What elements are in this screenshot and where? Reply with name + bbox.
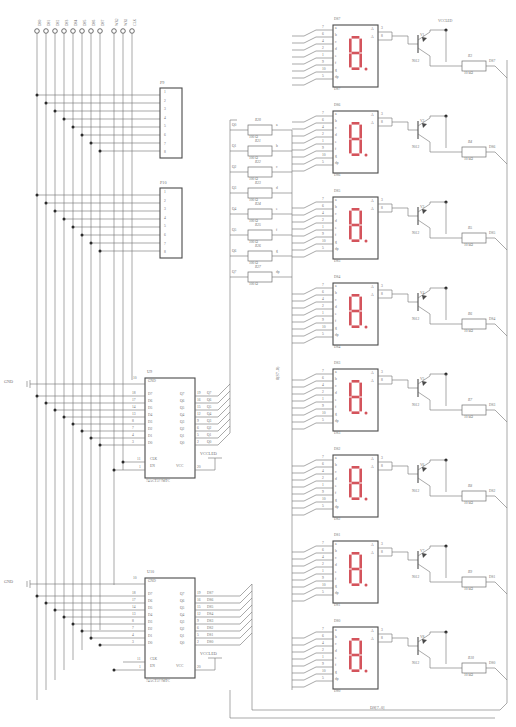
transistor-ref-V7: V7 [420, 550, 424, 554]
display-anode-label-DS1-1: A [371, 552, 374, 556]
ic-output-pin-U10-Q5: 15 [197, 606, 201, 610]
display-anode-pin-DS4-0: 3 [381, 285, 383, 289]
display-seg-pin-DS1-e: 1 [322, 570, 324, 574]
display-segment-DS0-3 [352, 669, 360, 672]
display-seg-name-DS2-d: d [335, 478, 337, 482]
display-segment-DS7-6 [352, 52, 360, 55]
top-terminal-label-DS0: DS0 [39, 20, 43, 26]
display-seg-pin-DS4-g: 10 [322, 326, 326, 330]
display-segment-DS5-6 [352, 224, 360, 227]
base-resistor-body-R4 [462, 147, 486, 157]
ic-input-pin-U10-D7: 18 [132, 592, 136, 596]
base-resistor-net-DS4: DS4 [489, 318, 495, 322]
base-resistor-body-R10 [462, 663, 486, 673]
display-seg-name-DS4-dp: dp [335, 334, 339, 338]
ic-output-U9-Q7: Q7 [180, 393, 184, 397]
display-decimal-point-DS6 [365, 154, 368, 157]
display-seg-name-DS5-d: d [335, 220, 337, 224]
vccled-rail-label: VCCLED [438, 20, 452, 24]
base-resistor-body-R3 [462, 61, 486, 71]
ic-output-U10-Q5: Q5 [180, 607, 184, 611]
display-seg-pin-DS5-g: 10 [322, 240, 326, 244]
display-anode-label-DS2-1: A [371, 466, 374, 470]
display-seg-name-DS7-d: d [335, 48, 337, 52]
display-anode-pin-DS1-0: 3 [381, 543, 383, 547]
display-segment-DS0-2 [359, 656, 362, 670]
display-seg-name-DS3-f: f [335, 406, 336, 410]
display-seg-pin-DS4-b: 6 [322, 291, 324, 295]
ic-input-pin-U9-D6: 17 [132, 399, 136, 403]
display-ref-bottom-DS5: DS5 [334, 260, 340, 264]
display-seg-pin-DS5-c: 4 [322, 212, 324, 216]
display-seg-diag-DS2-b [304, 467, 316, 473]
display-seg-diag-DS4-c [304, 302, 316, 308]
display-seg-name-DS3-g: g [335, 413, 337, 417]
display-seg-name-DS2-c: c [335, 471, 337, 475]
base-resistor-value-R9: 10 kΩ [464, 588, 473, 592]
transistor-collector-V3 [418, 220, 430, 228]
ic-output-net-U9-Q4: Q4 [207, 413, 211, 417]
ic-output-U9-Q4: Q4 [180, 414, 184, 418]
ic-input-U9-D2: D2 [148, 428, 152, 432]
display-seg-name-DS7-a: a [335, 27, 337, 31]
display-segment-DS6-0 [352, 122, 360, 125]
ic-clk-label-U9: CLK [150, 458, 157, 462]
ic-clk-pin-U10: 11 [137, 658, 140, 662]
base-resistor-net-DS7: DS7 [489, 60, 495, 64]
base-resistor-diag-R5 [495, 238, 507, 250]
ic-input-U9-D3: D3 [148, 421, 152, 425]
display-seg-pin-DS7-dp: 5 [322, 75, 324, 79]
ic-input-U10-D4: D4 [148, 614, 152, 618]
ic-output-U10-Q1: Q1 [180, 635, 184, 639]
ic-output-net-U10-DS3: DS3 [207, 620, 213, 624]
display-seg-pin-DS5-d: 2 [322, 219, 324, 223]
base-resistor-ref-R5: R5 [468, 227, 472, 231]
ic-output-net-U10-DS7: DS7 [207, 592, 213, 596]
display-seg-diag-DS1-e [304, 574, 316, 580]
transistor-collector-V7 [418, 564, 430, 572]
display-seg-pin-DS7-c: 4 [322, 40, 324, 44]
display-segment-DS5-5 [349, 211, 352, 225]
display-segment-DS0-1 [359, 641, 362, 655]
display-seg-name-DS0-a: a [335, 629, 337, 633]
ic-output-net-U9-Q0: Q0 [207, 441, 211, 445]
display-seg-name-DS6-a: a [335, 113, 337, 117]
display-seg-diag-DS3-b [304, 381, 316, 387]
base-resistor-body-R6 [462, 319, 486, 329]
display-seg-pin-DS0-g: 10 [322, 670, 326, 674]
base-resistor-value-R8: 10 kΩ [464, 502, 473, 506]
display-seg-pin-DS4-dp: 5 [322, 333, 324, 337]
display-seg-name-DS4-b: b [335, 292, 337, 296]
ic-output-pin-U9-Q4: 12 [197, 413, 201, 417]
display-ref-bottom-DS2: DS2 [334, 518, 340, 522]
display-seg-pin-DS3-c: 4 [322, 384, 324, 388]
display-seg-diag-DS4-b [304, 295, 316, 301]
display-seg-pin-DS3-dp: 5 [322, 419, 324, 423]
display-seg-diag-DS4-d [304, 309, 316, 315]
display-segment-DS6-5 [349, 125, 352, 139]
display-ref-top-DS6: DS6 [334, 104, 340, 108]
display-seg-name-DS3-b: b [335, 378, 337, 382]
display-seg-pin-DS2-c: 4 [322, 470, 324, 474]
display-segment-DS0-0 [352, 638, 360, 641]
display-segment-DS0-6 [352, 654, 360, 657]
ic-input-pin-U9-D5: 14 [132, 406, 136, 410]
display-seg-diag-DS0-g [304, 674, 316, 680]
ic-input-U9-D4: D4 [148, 414, 152, 418]
display-seg-pin-DS3-e: 1 [322, 398, 324, 402]
segment-resistor-out-R21: b [276, 145, 278, 149]
display-ref-top-DS5: DS5 [334, 190, 340, 194]
segment-resistor-ref-R23: R23 [255, 182, 261, 186]
transistor-ref-V2: V2 [420, 120, 424, 124]
base-resistor-value-R6: 10 kΩ [464, 330, 473, 334]
display-seg-diag-DS6-d [304, 137, 316, 143]
display-seg-pin-DS4-d: 2 [322, 305, 324, 309]
ic-output-U9-Q1: Q1 [180, 435, 184, 439]
display-row-graphics [0, 0, 516, 727]
display-segment-DS2-5 [349, 469, 352, 483]
transistor-arrow-V2 [422, 123, 427, 128]
display-segment-DS6-6 [352, 138, 360, 141]
display-seg-name-DS4-c: c [335, 299, 337, 303]
display-seg-name-DS4-d: d [335, 306, 337, 310]
display-segment-DS6-1 [359, 125, 362, 139]
